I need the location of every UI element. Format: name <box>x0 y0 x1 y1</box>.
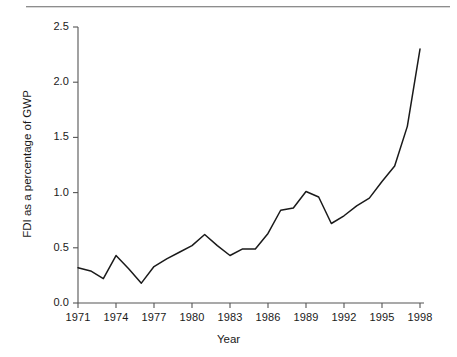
x-axis-ticks <box>78 303 420 308</box>
y-tick-label: 2.5 <box>33 20 69 32</box>
data-series-line <box>78 49 420 283</box>
y-axis-title: FDI as a percentage of GWP <box>21 74 33 254</box>
y-tick-label: 1.5 <box>33 130 69 142</box>
axes <box>78 27 424 303</box>
y-tick-label: 1.0 <box>33 186 69 198</box>
y-tick-label: 0.0 <box>33 296 69 308</box>
y-tick-label: 2.0 <box>33 75 69 87</box>
chart-figure: 0.00.51.01.52.02.5 197119741977198019831… <box>0 0 457 357</box>
x-axis-title: Year <box>0 333 457 345</box>
y-tick-label: 0.5 <box>33 241 69 253</box>
x-tick-label: 1998 <box>398 311 442 323</box>
y-axis-ticks <box>73 27 78 303</box>
